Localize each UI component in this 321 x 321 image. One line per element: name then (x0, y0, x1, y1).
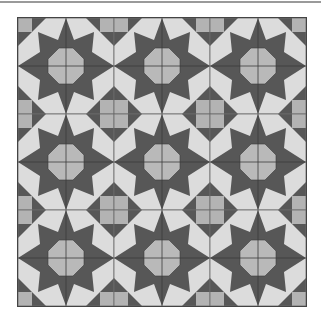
tiling-svg (18, 18, 306, 306)
star-tiling-pattern (17, 17, 307, 307)
top-rule (0, 1, 321, 3)
